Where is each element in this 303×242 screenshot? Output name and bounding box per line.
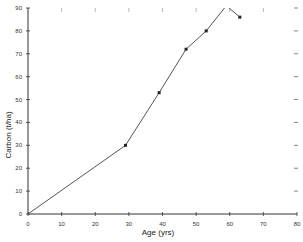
data-point-marker [205, 29, 208, 32]
y-tick-label: 0 [19, 211, 23, 217]
x-tick-label: 30 [126, 221, 133, 227]
y-tick-label: 10 [15, 188, 22, 194]
x-tick-label: 40 [159, 221, 166, 227]
x-tick-label: 80 [294, 221, 301, 227]
x-tick-label: 60 [226, 221, 233, 227]
data-line [28, 6, 240, 214]
x-axis-title: Age (yrs) [142, 228, 175, 237]
y-tick-label: 60 [15, 74, 22, 80]
plot-area: 010203040506070800102030405060708090 [15, 5, 301, 227]
x-tick-label: 0 [26, 221, 30, 227]
data-point-marker [185, 48, 188, 51]
y-tick-label: 90 [15, 5, 22, 11]
x-tick-label: 50 [193, 221, 200, 227]
x-tick-label: 20 [92, 221, 99, 227]
y-tick-label: 50 [15, 97, 22, 103]
data-point-marker [158, 91, 161, 94]
y-tick-label: 20 [15, 165, 22, 171]
carbon-age-chart: 010203040506070800102030405060708090 Car… [0, 0, 303, 242]
x-tick-label: 70 [260, 221, 267, 227]
y-tick-label: 40 [15, 119, 22, 125]
y-tick-label: 80 [15, 28, 22, 34]
y-tick-label: 30 [15, 142, 22, 148]
x-tick-label: 10 [58, 221, 65, 227]
data-point-marker [238, 16, 241, 19]
y-axis-title: Carbon (t/ha) [4, 111, 13, 158]
data-point-marker [124, 144, 127, 147]
y-tick-label: 70 [15, 51, 22, 57]
